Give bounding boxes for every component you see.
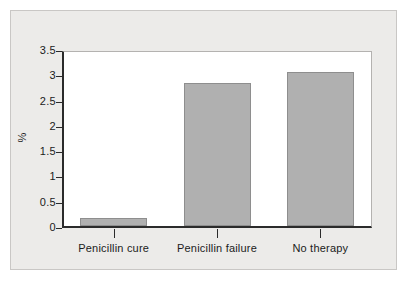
y-axis-tick-labels: 00.511.522.533.5 (16, 0, 56, 285)
y-axis-tick-label: 1 (22, 171, 56, 182)
y-axis-tick-mark (56, 228, 62, 229)
x-axis-tick-label: Penicillin cure (62, 243, 165, 254)
y-axis-tick-label: 3 (22, 70, 56, 81)
plot-area (62, 51, 372, 228)
x-axis-tick-mark (114, 229, 115, 238)
y-axis-tick-label: 3.5 (22, 45, 56, 56)
figure: % 00.511.522.533.5 Penicillin curePenici… (0, 0, 411, 285)
y-axis-tick-label: 1.5 (22, 146, 56, 157)
bar (287, 72, 354, 226)
y-axis-tick-mark (56, 203, 62, 204)
y-axis-tick-mark (56, 177, 62, 178)
y-axis-tick-mark (56, 102, 62, 103)
y-axis-tick-mark (56, 152, 62, 153)
y-axis-tick-label: 0.5 (22, 197, 56, 208)
x-axis-tick-mark (217, 229, 218, 238)
chart-plot-wrapper: % 00.511.522.533.5 Penicillin curePenici… (0, 0, 411, 285)
x-axis-tick-mark (320, 229, 321, 238)
y-axis-tick-label: 2 (22, 121, 56, 132)
x-axis-tick-label: Penicillin failure (165, 243, 268, 254)
y-axis-tick-mark (56, 127, 62, 128)
bar (80, 218, 147, 226)
y-axis-tick-label: 2.5 (22, 96, 56, 107)
bar (184, 83, 251, 226)
x-axis-tick-label: No therapy (269, 243, 372, 254)
y-axis-tick-label: 0 (22, 222, 56, 233)
y-axis-tick-mark (56, 76, 62, 77)
y-axis-tick-mark (56, 51, 62, 52)
